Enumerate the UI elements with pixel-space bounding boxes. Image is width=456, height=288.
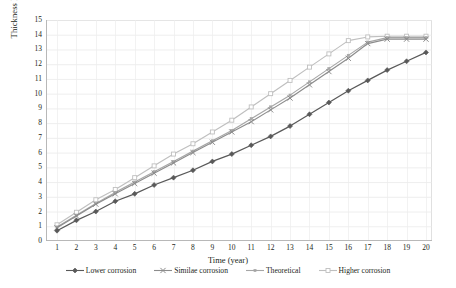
y-axis-tick: 0 [20, 237, 42, 245]
data-point-marker [289, 94, 291, 96]
y-axis-tick-labels: 0123456789101112131415 [18, 20, 42, 241]
x-axis-tick: 10 [224, 243, 240, 252]
data-point-marker [254, 269, 256, 271]
data-point-marker [249, 105, 253, 109]
data-point-marker [366, 35, 370, 39]
legend-item-similae-corrosion[interactable]: Similae corrosion [154, 266, 228, 275]
x-axis-tick: 1 [49, 243, 65, 252]
chart-legend: Lower corrosionSimilae corrosionTheoreti… [0, 266, 456, 275]
data-point-marker [269, 92, 273, 96]
x-axis-label: Time (year) [0, 255, 456, 265]
x-axis-tick: 7 [166, 243, 182, 252]
legend-swatch-smallsquare-icon [246, 266, 264, 275]
x-axis-tick: 14 [301, 243, 317, 252]
x-axis-tick: 15 [321, 243, 337, 252]
x-axis-tick: 2 [68, 243, 84, 252]
x-axis-tick: 12 [263, 243, 279, 252]
y-axis-tick: 13 [20, 45, 42, 53]
data-point-marker [308, 81, 310, 83]
legend-swatch-diamond-icon [66, 266, 84, 275]
data-point-marker [327, 52, 331, 56]
legend-label: Similae corrosion [174, 266, 228, 275]
y-axis-tick: 3 [20, 193, 42, 201]
x-axis-tick: 5 [127, 243, 143, 252]
legend-label: Theoretical [266, 266, 301, 275]
legend-label: Higher corrosion [339, 266, 391, 275]
data-point-marker [347, 54, 349, 56]
y-axis-tick: 5 [20, 163, 42, 171]
x-axis-tick-labels: 1234567891011121314151617181920 [46, 243, 432, 255]
y-axis-tick: 7 [20, 134, 42, 142]
x-axis-tick: 8 [185, 243, 201, 252]
y-axis-tick: 9 [20, 104, 42, 112]
data-point-marker [72, 268, 77, 273]
data-point-marker [288, 78, 292, 82]
legend-item-lower-corrosion[interactable]: Lower corrosion [66, 266, 136, 275]
data-point-marker [230, 118, 234, 122]
data-point-marker [307, 65, 311, 69]
x-axis-tick: 16 [340, 243, 356, 252]
y-axis-tick: 15 [20, 16, 42, 24]
legend-label: Lower corrosion [86, 266, 136, 275]
legend-swatch-opensquare-icon [319, 266, 337, 275]
x-axis-tick: 20 [418, 243, 434, 252]
legend-item-higher-corrosion[interactable]: Higher corrosion [319, 266, 391, 275]
legend-swatch-x-icon [154, 266, 172, 275]
data-point-marker [94, 198, 98, 202]
data-point-marker [210, 130, 214, 134]
x-axis-tick: 17 [360, 243, 376, 252]
data-point-marker [270, 106, 272, 108]
data-point-marker [250, 118, 252, 120]
y-axis-tick: 10 [20, 90, 42, 98]
data-point-marker [172, 152, 176, 156]
y-axis-tick: 12 [20, 60, 42, 68]
y-axis-tick: 2 [20, 208, 42, 216]
x-axis-tick: 6 [146, 243, 162, 252]
x-axis-tick: 3 [88, 243, 104, 252]
x-axis-tick: 9 [204, 243, 220, 252]
y-axis-tick: 11 [20, 75, 42, 83]
legend-item-theoretical[interactable]: Theoretical [246, 266, 301, 275]
chart-figure: Thickness loss (mm) 01234567891011121314… [0, 0, 456, 288]
data-point-marker [113, 187, 117, 191]
data-point-marker [328, 68, 330, 70]
y-axis-tick: 1 [20, 222, 42, 230]
x-axis-tick: 4 [107, 243, 123, 252]
y-axis-tick: 8 [20, 119, 42, 127]
x-axis-tick: 11 [243, 243, 259, 252]
x-axis-tick: 18 [379, 243, 395, 252]
data-point-marker [326, 269, 330, 273]
data-point-marker [152, 164, 156, 168]
y-axis-tick: 14 [20, 31, 42, 39]
data-point-marker [346, 39, 350, 43]
data-point-marker [191, 142, 195, 146]
x-axis-tick: 13 [282, 243, 298, 252]
data-point-marker [74, 210, 78, 214]
y-axis-tick: 4 [20, 178, 42, 186]
x-axis-tick: 19 [399, 243, 415, 252]
y-axis-tick: 6 [20, 149, 42, 157]
plot-svg [46, 20, 432, 241]
data-point-marker [133, 176, 137, 180]
plot-area [46, 20, 432, 241]
